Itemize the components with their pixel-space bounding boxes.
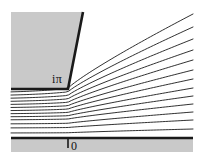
streamline-plot (0, 0, 204, 162)
figure-canvas: iπ 0 (0, 0, 204, 162)
origin-label: 0 (71, 140, 77, 152)
streamline-10 (11, 112, 193, 124)
streamline-12 (11, 129, 193, 133)
upper-shaded-region (11, 12, 83, 89)
lower-shaded-region (11, 139, 193, 152)
streamline-9 (11, 104, 193, 120)
shaded-region-group (11, 12, 193, 152)
upper-boundary-label: iπ (52, 73, 62, 85)
